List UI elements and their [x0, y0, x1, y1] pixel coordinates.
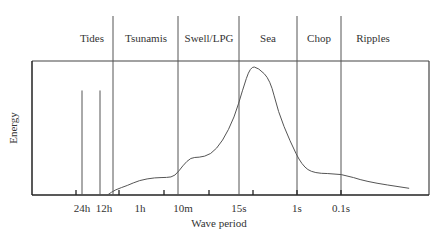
x-tick-label: 1s [292, 202, 302, 214]
band-label: Chop [307, 32, 331, 44]
wave-energy-chart: TidesTsunamisSwell/LPGSeaChopRipples 24h… [0, 0, 439, 246]
band-label: Ripples [356, 32, 390, 44]
x-axis-label: Wave period [191, 217, 247, 229]
x-tick-label: 10m [173, 202, 193, 214]
x-tick-label: 1h [135, 202, 147, 214]
x-tick-label: 0.1s [332, 202, 350, 214]
y-axis-label: Energy [7, 112, 19, 144]
x-tick-label: 15s [231, 202, 246, 214]
band-label: Tides [80, 32, 104, 44]
x-tick-label: 12h [96, 202, 113, 214]
x-tick-label: 24h [74, 202, 91, 214]
band-label: Tsunamis [125, 32, 167, 44]
band-label: Sea [260, 32, 276, 44]
band-label: Swell/LPG [185, 32, 234, 44]
energy-curve [107, 67, 409, 195]
